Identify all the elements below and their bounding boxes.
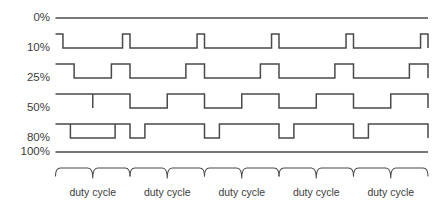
row-label-50pct: 50%: [27, 101, 50, 113]
duty-cycle-bracket: [130, 168, 205, 178]
row-label-10pct: 10%: [27, 41, 50, 53]
duty-cycle-bracket: [279, 168, 354, 178]
duty-cycle-bracket: [354, 168, 429, 178]
row-label-0pct: 0%: [33, 11, 50, 23]
duty-cycle-bracket-label: duty cycle: [218, 186, 265, 198]
duty-cycle-bracket-label: duty cycle: [69, 186, 116, 198]
duty-cycle-axis-labels: 0%10%25%50%80%100%: [21, 11, 50, 157]
duty-cycle-bracket-group: duty cycleduty cycleduty cycleduty cycle…: [56, 168, 429, 198]
pwm-duty-cycle-diagram: 0%10%25%50%80%100% duty cycleduty cycled…: [0, 0, 438, 215]
duty-cycle-bracket-label: duty cycle: [144, 186, 191, 198]
row-label-100pct: 100%: [21, 145, 50, 157]
waveform-10pct: [56, 34, 429, 48]
waveform-50pct: [56, 94, 429, 108]
waveform-25pct: [56, 64, 429, 78]
waveform-80pct: [56, 124, 429, 138]
waveform-group: [56, 18, 429, 152]
duty-cycle-bracket-label: duty cycle: [293, 186, 340, 198]
duty-cycle-bracket: [205, 168, 280, 178]
duty-cycle-bracket-label: duty cycle: [367, 186, 414, 198]
row-label-25pct: 25%: [27, 71, 50, 83]
duty-cycle-bracket: [56, 168, 131, 178]
row-label-80pct: 80%: [27, 131, 50, 143]
